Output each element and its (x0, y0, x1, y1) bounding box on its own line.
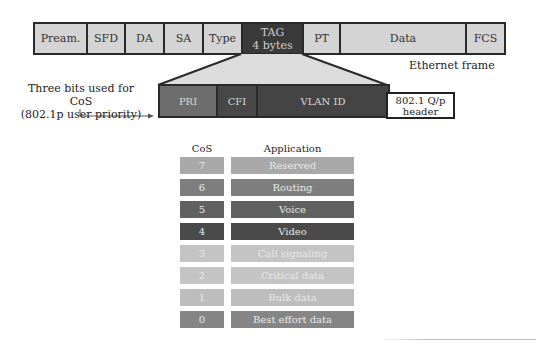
cos-value-6: 6 (180, 179, 224, 196)
application-0: Best effort data (231, 311, 354, 328)
application-1: Bulk data (231, 289, 354, 306)
cos-value-0: 0 (180, 311, 224, 328)
tag-detail: PRICFIVLAN ID (158, 84, 390, 118)
cos-value-5: 5 (180, 201, 224, 218)
cos-annotation: Three bits used for CoS (802.1p user pri… (20, 82, 142, 121)
cos-value-1: 1 (180, 289, 224, 306)
cos-annotation-line2: (802.1p user priority) (20, 108, 142, 121)
cos-value-2: 2 (180, 267, 224, 284)
application-3: Call signaling (231, 245, 354, 262)
tag-field-cfi: CFI (218, 86, 258, 116)
cos-value-3: 3 (180, 245, 224, 262)
tag-field-pri: PRI (160, 86, 218, 116)
application-6: Routing (231, 179, 354, 196)
cos-annotation-line1: Three bits used for CoS (20, 82, 142, 108)
cos-value-7: 7 (180, 157, 224, 174)
application-4: Video (231, 223, 354, 240)
application-5: Voice (231, 201, 354, 218)
dot1q-header-label: 802.1 Q/p header (386, 92, 455, 119)
application-7: Reserved (231, 157, 354, 174)
tag-field-vlan-id: VLAN ID (258, 86, 388, 116)
bottom-divider (380, 339, 536, 340)
ethernet-frame-caption: Ethernet frame (409, 59, 495, 72)
application-column-header: Application (231, 143, 354, 154)
cos-value-4: 4 (180, 223, 224, 240)
cos-column-header: CoS (180, 143, 224, 154)
application-2: Critical data (231, 267, 354, 284)
